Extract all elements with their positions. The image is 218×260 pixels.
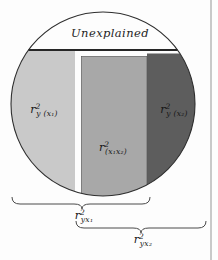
region-middle-shared: [82, 57, 148, 198]
region-label-unique-x2: r2y (x₂): [160, 100, 188, 116]
region-right-unique-x2: [147, 54, 205, 200]
unexplained-label: Unexplained: [71, 26, 149, 40]
region-label-unique-x1: r2y (x₁): [30, 100, 58, 116]
formula-subscript: yx₁: [81, 215, 93, 224]
formula-subscript: y (x₁): [36, 109, 58, 118]
region-label-shared-x1x2: r2(x₁x₂): [99, 138, 127, 154]
formula-subscript: yx₂: [140, 239, 152, 248]
brace-label-yx1: r2yx₁: [75, 206, 93, 222]
page-edge-line: [210, 0, 212, 260]
variance-partition-figure: Unexplained r2y (x₁) r2(x₁x₂) r2y (x₂) r…: [0, 0, 218, 260]
brace-label-yx2: r2yx₂: [134, 230, 152, 246]
formula-subscript: y (x₂): [166, 109, 188, 118]
formula-subscript: (x₁x₂): [105, 147, 127, 156]
